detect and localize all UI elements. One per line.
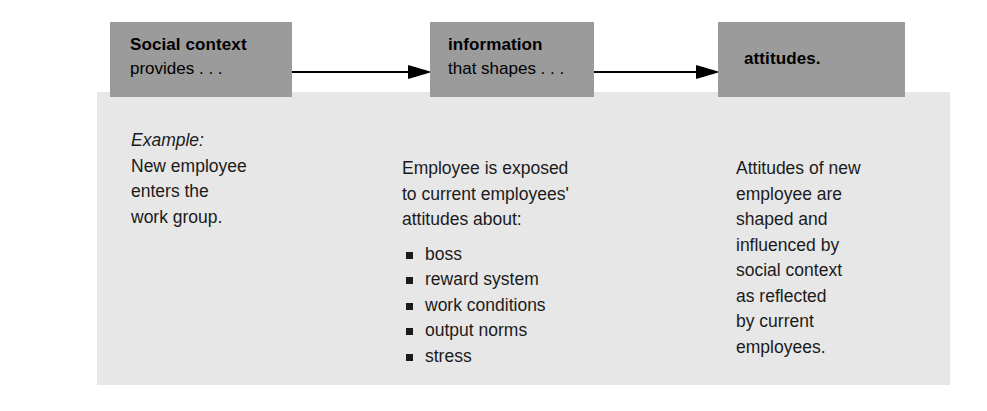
square-bullet-icon xyxy=(406,252,413,259)
list-item-label: reward system xyxy=(425,269,539,289)
example-label: Example: xyxy=(131,128,346,154)
process-box-title: Social context xyxy=(130,34,292,56)
column-line: influenced by xyxy=(736,233,941,259)
arrow-right-icon xyxy=(594,62,720,82)
square-bullet-icon xyxy=(406,303,413,310)
column-line: enters the xyxy=(131,179,346,205)
column-line: to current employees' xyxy=(402,182,652,208)
square-bullet-icon xyxy=(406,328,413,335)
column-line: employees. xyxy=(736,335,941,361)
column-information: Employee is exposed to current employees… xyxy=(402,156,652,369)
column-attitudes: Attitudes of new employee are shaped and… xyxy=(736,156,941,360)
list-item-label: boss xyxy=(425,244,462,264)
column-line: work group. xyxy=(131,205,346,231)
column-line: by current xyxy=(736,309,941,335)
column-line: Attitudes of new xyxy=(736,156,941,182)
list-item: reward system xyxy=(402,267,652,293)
column-example: Example: New employee enters the work gr… xyxy=(131,128,346,230)
list-item-label: work conditions xyxy=(425,295,546,315)
attitude-formation-diagram: Social context provides . . . informatio… xyxy=(0,0,987,411)
column-line: New employee xyxy=(131,154,346,180)
process-box-social-context: Social context provides . . . xyxy=(110,22,292,97)
column-line: as reflected xyxy=(736,284,941,310)
process-box-attitudes: attitudes. xyxy=(718,22,905,97)
column-line: employee are xyxy=(736,182,941,208)
arrow-right-icon xyxy=(292,62,432,82)
list-item: work conditions xyxy=(402,293,652,319)
column-line: attitudes about: xyxy=(402,207,652,233)
process-box-title: information xyxy=(448,34,594,56)
attitude-topics-list: boss reward system work conditions outpu… xyxy=(402,242,652,370)
list-item-label: output norms xyxy=(425,320,527,340)
list-item-label: stress xyxy=(425,346,472,366)
process-box-title: attitudes. xyxy=(744,34,905,70)
process-box-subtitle: provides . . . xyxy=(130,58,292,80)
process-box-subtitle: that shapes . . . xyxy=(448,58,594,80)
column-line: Employee is exposed xyxy=(402,156,652,182)
square-bullet-icon xyxy=(406,277,413,284)
column-line: social context xyxy=(736,258,941,284)
process-box-information: information that shapes . . . xyxy=(430,22,594,97)
column-line: shaped and xyxy=(736,207,941,233)
square-bullet-icon xyxy=(406,354,413,361)
list-item: stress xyxy=(402,344,652,370)
list-item: boss xyxy=(402,242,652,268)
list-item: output norms xyxy=(402,318,652,344)
